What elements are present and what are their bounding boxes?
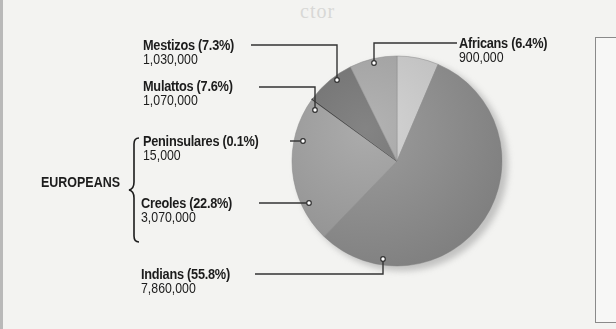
leader-mestizos (251, 45, 337, 80)
label-mestizos: Mestizos (7.3%) 1,030,000 (143, 38, 246, 66)
label-peninsulares-value: 15,000 (143, 148, 255, 162)
group-label-europeans: EUROPEANS (41, 174, 120, 190)
label-mulattos-name: Mulattos (7.6%) (143, 79, 233, 93)
label-creoles-value: 3,070,000 (141, 210, 229, 224)
label-mulattos-value: 1,070,000 (143, 93, 230, 107)
label-mulattos: Mulattos (7.6%) 1,070,000 (143, 79, 245, 107)
label-peninsulares-name: Peninsulares (0.1%) (143, 134, 259, 148)
label-africans: Africans (6.4%) 900,000 (459, 36, 559, 64)
label-mestizos-value: 1,030,000 (143, 52, 231, 66)
label-indians: Indians (55.8%) 7,860,000 (141, 267, 242, 295)
label-africans-value: 900,000 (459, 50, 544, 64)
label-mestizos-name: Mestizos (7.3%) (143, 38, 234, 52)
label-peninsulares: Peninsulares (0.1%) 15,000 (143, 134, 274, 162)
pie-shading (292, 56, 502, 266)
label-africans-name: Africans (6.4%) (459, 36, 547, 50)
label-creoles: Creoles (22.8%) 3,070,000 (141, 196, 245, 224)
brace-icon (128, 136, 142, 246)
label-creoles-name: Creoles (22.8%) (141, 196, 232, 210)
label-indians-name: Indians (55.8%) (141, 267, 230, 281)
label-indians-value: 7,860,000 (141, 281, 227, 295)
leader-mulattos (259, 87, 315, 110)
